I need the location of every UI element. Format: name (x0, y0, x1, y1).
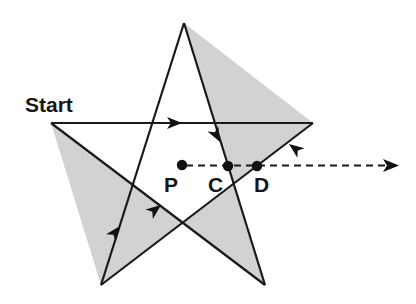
dashed-ray-arrowhead-icon (383, 159, 399, 172)
point-c-dot (223, 161, 233, 171)
start-label: Start (25, 93, 73, 116)
point-d-label: D (254, 173, 269, 196)
point-c-label: C (208, 173, 223, 196)
point-d-dot (252, 161, 262, 171)
point-p-label: P (164, 173, 178, 196)
point-p-dot (177, 160, 187, 170)
pentagram-diagram-svg: Start P C D (0, 0, 416, 304)
figure-root: Start P C D (0, 0, 416, 304)
